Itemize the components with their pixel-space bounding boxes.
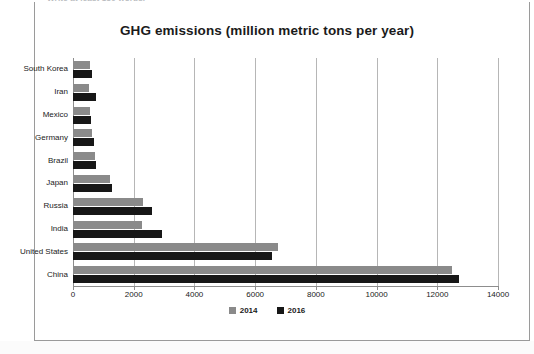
legend-swatch-2016 <box>277 307 284 314</box>
x-axis-tick-label: 12000 <box>426 290 448 299</box>
x-axis-tick-label: 6000 <box>246 290 264 299</box>
bar-united-states-2016 <box>73 252 272 260</box>
x-axis-tick-label: 10000 <box>365 290 387 299</box>
category-label-south-korea: South Korea <box>24 64 68 74</box>
bar-south-korea-2016 <box>73 70 92 78</box>
x-axis-tick-label: 8000 <box>307 290 325 299</box>
category-label-japan: Japan <box>46 178 68 188</box>
page-bottom-margin <box>0 341 534 354</box>
category-label-china: China <box>47 270 68 280</box>
bar-brazil-2016 <box>73 161 96 169</box>
bar-mexico-2016 <box>73 116 91 124</box>
bar-russia-2014 <box>73 198 143 206</box>
bar-india-2014 <box>73 221 142 229</box>
category-label-russia: Russia <box>44 201 68 211</box>
y-axis-category-labels: South KoreaIranMexicoGermanyBrazilJapanR… <box>0 58 68 286</box>
x-axis-tick-label: 0 <box>71 290 75 299</box>
chart-legend: 2014 2016 <box>0 306 534 315</box>
legend-swatch-2014 <box>229 307 236 314</box>
legend-label-2016: 2016 <box>288 306 306 315</box>
plot-area <box>73 58 498 286</box>
bar-iran-2014 <box>73 84 89 92</box>
bar-china-2016 <box>73 275 459 283</box>
category-label-germany: Germany <box>35 133 68 143</box>
bar-germany-2016 <box>73 138 94 146</box>
legend-item-2014: 2014 <box>229 306 258 315</box>
category-label-mexico: Mexico <box>43 110 68 120</box>
category-label-brazil: Brazil <box>48 156 68 166</box>
x-axis-tick-label: 4000 <box>186 290 204 299</box>
legend-item-2016: 2016 <box>277 306 306 315</box>
bar-germany-2014 <box>73 129 92 137</box>
bar-japan-2014 <box>73 175 110 183</box>
bar-china-2014 <box>73 266 452 274</box>
gridline <box>377 58 378 286</box>
category-label-united-states: United States <box>20 247 68 257</box>
bar-united-states-2014 <box>73 243 278 251</box>
bar-india-2016 <box>73 230 162 238</box>
bar-japan-2016 <box>73 184 112 192</box>
bar-brazil-2014 <box>73 152 95 160</box>
legend-label-2014: 2014 <box>240 306 258 315</box>
gridline <box>498 58 499 286</box>
x-axis-tick-label: 14000 <box>487 290 509 299</box>
bar-south-korea-2014 <box>73 61 90 69</box>
x-axis-line <box>73 286 499 287</box>
category-label-india: India <box>51 224 68 234</box>
gridline <box>316 58 317 286</box>
bar-mexico-2014 <box>73 107 90 115</box>
chart-title: GHG emissions (million metric tons per y… <box>0 23 534 38</box>
chart-container: Write at least 150 words. GHG emissions … <box>0 0 534 354</box>
category-label-iran: Iran <box>54 87 68 97</box>
bar-russia-2016 <box>73 207 152 215</box>
gridline <box>437 58 438 286</box>
bar-iran-2016 <box>73 93 96 101</box>
x-axis-tick-label: 2000 <box>125 290 143 299</box>
